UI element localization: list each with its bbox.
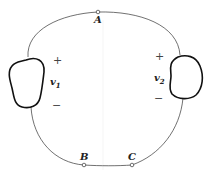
right-bottom-wire [132, 98, 183, 165]
node-c-label: C [128, 151, 136, 162]
source-v1-shape [9, 59, 44, 108]
v2-label: v2 [154, 72, 165, 86]
v1-subscript: 1 [56, 81, 61, 90]
circuit-diagram: A B C + − v1 + − v2 [0, 0, 211, 174]
node-c-terminal [130, 163, 134, 167]
node-a-label: A [94, 14, 102, 25]
node-b-terminal [82, 163, 86, 167]
v2-subscript: 2 [160, 77, 165, 86]
v2-minus-sign: − [154, 92, 163, 105]
left-bottom-wire [31, 107, 84, 165]
v2-plus-sign: + [155, 50, 164, 63]
bc-wire [84, 165, 132, 166]
circuit-wires [0, 0, 211, 174]
node-b-label: B [80, 151, 88, 162]
v1-label: v1 [50, 76, 61, 90]
v1-minus-sign: − [52, 99, 61, 112]
source-v2-shape [170, 56, 202, 99]
v1-plus-sign: + [53, 54, 62, 67]
